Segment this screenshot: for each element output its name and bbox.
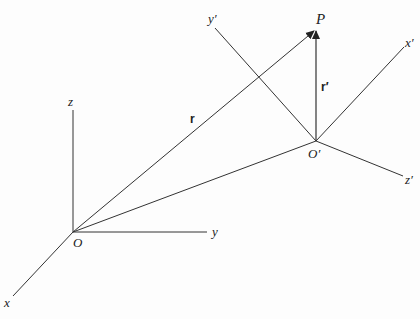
x-axis — [13, 232, 73, 296]
x-prime-axis — [316, 47, 404, 141]
label-y: y — [210, 224, 218, 239]
label-vector-r: r — [190, 112, 195, 126]
origin-connector — [73, 141, 316, 232]
diagram-canvas: z y x O O′ x′ y′ z′ P r r′ — [0, 0, 420, 319]
coordinate-frames-diagram: z y x O O′ x′ y′ z′ P r r′ — [0, 0, 420, 319]
label-z: z — [67, 94, 73, 109]
label-point-P: P — [315, 11, 325, 27]
label-x: x — [3, 295, 10, 310]
label-y-prime: y′ — [206, 11, 217, 26]
label-origin-O: O — [73, 235, 83, 250]
vector-r — [73, 31, 314, 232]
label-origin-O-prime: O′ — [308, 146, 320, 161]
label-z-prime: z′ — [404, 172, 413, 187]
label-x-prime: x′ — [404, 35, 414, 50]
label-vector-r-prime: r′ — [321, 80, 329, 94]
z-prime-axis — [316, 141, 403, 176]
y-prime-axis — [215, 28, 316, 141]
